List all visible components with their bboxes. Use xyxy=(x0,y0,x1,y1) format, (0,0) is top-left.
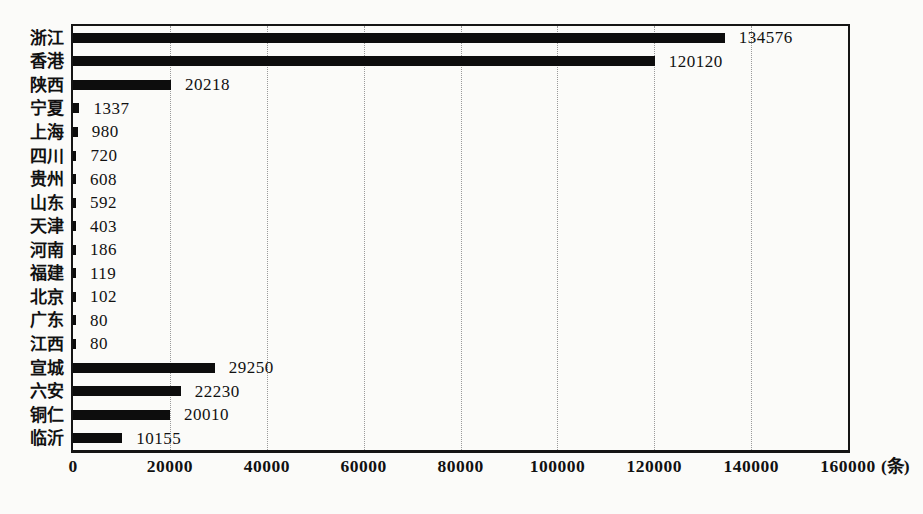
bar-row: 10155 xyxy=(73,426,848,450)
category-label: 铜仁 xyxy=(30,406,64,423)
bar xyxy=(73,339,76,349)
bar xyxy=(73,174,76,184)
bar xyxy=(73,245,76,255)
bar-row: 592 xyxy=(73,191,848,215)
value-label: 134576 xyxy=(739,29,793,46)
value-label: 120120 xyxy=(669,53,723,70)
bar-row: 29250 xyxy=(73,356,848,380)
category-label: 上海 xyxy=(30,124,64,141)
category-label: 浙江 xyxy=(30,29,64,46)
bar xyxy=(73,103,79,113)
bar xyxy=(73,410,170,420)
category-label: 江西 xyxy=(30,336,64,353)
value-label: 20218 xyxy=(185,76,230,93)
category-label: 广东 xyxy=(30,312,64,329)
value-label: 10155 xyxy=(136,430,181,447)
bar-row: 80 xyxy=(73,332,848,356)
x-tick-label: 100000 xyxy=(530,458,586,476)
bar-row: 1337 xyxy=(73,97,848,121)
value-label: 20010 xyxy=(184,406,229,423)
value-label: 29250 xyxy=(229,359,274,376)
category-label: 四川 xyxy=(30,147,64,164)
bar xyxy=(73,315,76,325)
value-label: 102 xyxy=(90,288,117,305)
category-label: 宁夏 xyxy=(30,100,64,117)
value-label: 1337 xyxy=(93,100,129,117)
bar-row: 186 xyxy=(73,238,848,262)
bar xyxy=(73,151,76,161)
x-tick-label: 80000 xyxy=(437,458,483,476)
bar-row: 608 xyxy=(73,167,848,191)
bar xyxy=(73,80,171,90)
value-label: 80 xyxy=(90,312,108,329)
category-label: 香港 xyxy=(30,53,64,70)
x-tick-label: 40000 xyxy=(244,458,290,476)
value-label: 119 xyxy=(90,265,116,282)
x-tick-label: 120000 xyxy=(627,458,683,476)
bar-row: 20010 xyxy=(73,403,848,427)
x-tick-label: 20000 xyxy=(147,458,193,476)
x-axis: 0200004000060000800001000001200001400001… xyxy=(0,458,923,484)
value-label: 80 xyxy=(90,335,108,352)
bar xyxy=(73,433,122,443)
category-label: 山东 xyxy=(30,194,64,211)
value-label: 403 xyxy=(90,218,117,235)
x-tick-label: 60000 xyxy=(341,458,387,476)
category-label: 福建 xyxy=(30,265,64,282)
category-label: 临沂 xyxy=(30,430,64,447)
bar xyxy=(73,127,78,137)
bar-row: 403 xyxy=(73,214,848,238)
bar-row: 980 xyxy=(73,120,848,144)
bar xyxy=(73,221,76,231)
bar-row: 720 xyxy=(73,144,848,168)
category-label: 北京 xyxy=(30,288,64,305)
bar xyxy=(73,292,76,302)
bar xyxy=(73,198,76,208)
bar-row: 120120 xyxy=(73,50,848,74)
value-label: 592 xyxy=(90,194,117,211)
value-label: 22230 xyxy=(195,383,240,400)
category-label: 宣城 xyxy=(30,359,64,376)
bar-chart: 浙江香港陕西宁夏上海四川贵州山东天津河南福建北京广东江西宣城六安铜仁临沂 134… xyxy=(0,0,923,514)
plot-area: 1345761201202021813379807206085924031861… xyxy=(71,24,850,453)
bar xyxy=(73,268,76,278)
bar xyxy=(73,386,181,396)
bar xyxy=(73,33,725,43)
category-label: 陕西 xyxy=(30,76,64,93)
bar-row: 20218 xyxy=(73,73,848,97)
value-label: 608 xyxy=(90,171,117,188)
category-label: 河南 xyxy=(30,241,64,258)
value-label: 186 xyxy=(90,241,117,258)
category-axis: 浙江香港陕西宁夏上海四川贵州山东天津河南福建北京广东江西宣城六安铜仁临沂 xyxy=(0,26,67,450)
bar-row: 134576 xyxy=(73,26,848,50)
bar-row: 22230 xyxy=(73,379,848,403)
x-tick-label: 140000 xyxy=(723,458,779,476)
bar-row: 80 xyxy=(73,309,848,333)
x-tick-label: 160000 xyxy=(820,458,876,476)
bar-row: 102 xyxy=(73,285,848,309)
category-label: 贵州 xyxy=(30,171,64,188)
x-axis-unit-label: (条) xyxy=(881,458,910,476)
value-label: 980 xyxy=(92,123,119,140)
bar xyxy=(73,56,655,66)
bar-row: 119 xyxy=(73,262,848,286)
bar xyxy=(73,363,215,373)
category-label: 天津 xyxy=(30,218,64,235)
value-label: 720 xyxy=(90,147,117,164)
category-label: 六安 xyxy=(30,383,64,400)
x-tick-label: 0 xyxy=(68,458,77,476)
